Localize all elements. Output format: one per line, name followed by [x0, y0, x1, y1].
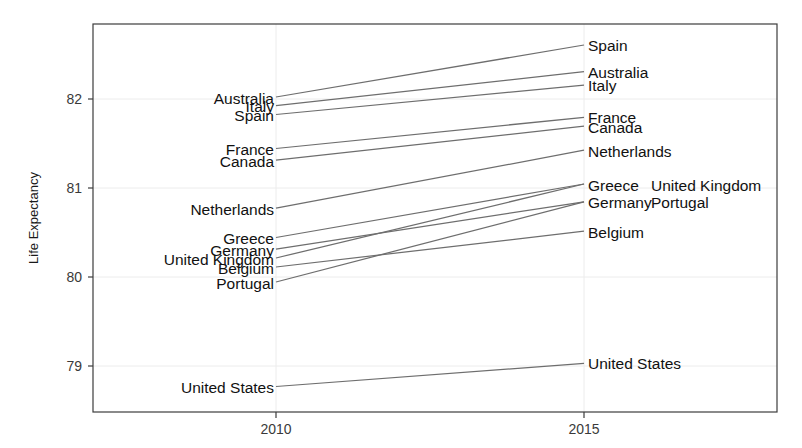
right-label-spain: Spain	[588, 37, 628, 54]
slope-chart: 82 81 80 79 2010 2015 Life Expectancy Au…	[0, 0, 802, 448]
right-label-canada: Canada	[588, 119, 643, 136]
xtick-label-2010: 2010	[260, 421, 291, 437]
ytick-label-82: 82	[66, 91, 82, 107]
y-axis-title: Life Expectancy	[26, 172, 41, 264]
right-label-greece: Greece	[588, 177, 639, 194]
left-label-canada: Canada	[220, 153, 275, 170]
right-label-united-states: United States	[588, 355, 681, 372]
xtick-label-2015: 2015	[568, 421, 599, 437]
ytick-label-80: 80	[66, 269, 82, 285]
right-label-belgium: Belgium	[588, 224, 644, 241]
right-label-germany: Germany	[588, 194, 652, 211]
plot-background	[93, 24, 777, 412]
right-label-portugal: Portugal	[651, 194, 709, 211]
right-label-italy: Italy	[588, 77, 617, 94]
right-label-united-kingdom: United Kingdom	[651, 177, 761, 194]
left-label-united-states: United States	[181, 379, 274, 396]
right-label-netherlands: Netherlands	[588, 143, 672, 160]
ytick-label-79: 79	[66, 358, 82, 374]
chart-canvas: 82 81 80 79 2010 2015 Life Expectancy Au…	[0, 0, 802, 448]
x-axis-ticks	[276, 412, 584, 418]
left-label-netherlands: Netherlands	[190, 201, 274, 218]
ytick-label-81: 81	[66, 180, 82, 196]
left-label-portugal: Portugal	[216, 275, 274, 292]
left-label-spain: Spain	[234, 107, 274, 124]
y-axis-ticks	[88, 99, 93, 366]
